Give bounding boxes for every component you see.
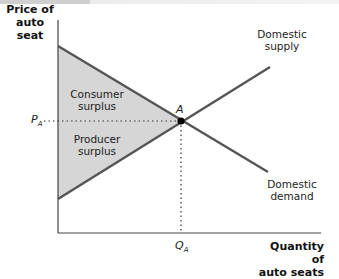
consumer-surplus-label: Consumer surplus: [66, 88, 128, 112]
x-axis-label: Quantity of auto seats: [258, 240, 324, 279]
demand-label-line2: demand: [264, 190, 320, 202]
price-label: PA: [31, 113, 42, 128]
demand-label: Domestic demand: [264, 178, 320, 202]
equilibrium-point: [177, 117, 184, 124]
supply-label-line2: supply: [254, 40, 310, 52]
producer-surplus-line2: surplus: [66, 145, 128, 157]
equilibrium-label: A: [176, 103, 184, 116]
y-axis-label-line2: auto seat: [4, 16, 56, 42]
producer-surplus-line1: Producer: [66, 133, 128, 145]
price-label-sub: A: [38, 120, 43, 128]
x-axis-label-line1: Quantity of: [258, 240, 324, 266]
y-axis-label: Price of auto seat: [4, 3, 56, 42]
y-axis-label-line1: Price of: [4, 3, 56, 16]
price-label-main: P: [31, 113, 38, 126]
supply-label-line1: Domestic: [254, 28, 310, 40]
consumer-surplus-line2: surplus: [66, 100, 128, 112]
quantity-label-main: Q: [175, 239, 184, 252]
demand-label-line1: Domestic: [264, 178, 320, 190]
x-axis-label-line2: auto seats: [258, 266, 324, 279]
supply-label: Domestic supply: [254, 28, 310, 52]
quantity-label: QA: [175, 239, 188, 254]
consumer-surplus-line1: Consumer: [66, 88, 128, 100]
quantity-label-sub: A: [184, 246, 189, 254]
producer-surplus-label: Producer surplus: [66, 133, 128, 157]
